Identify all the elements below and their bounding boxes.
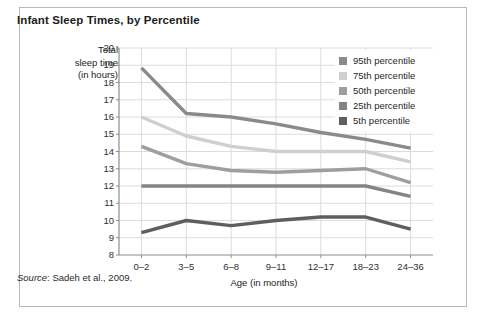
legend-swatch-icon	[339, 72, 347, 80]
source-note: Source: Sadeh et al., 2009.	[17, 272, 132, 283]
legend-swatch-icon	[339, 87, 347, 95]
legend-item[interactable]: 95th percentile	[335, 53, 433, 68]
legend-swatch-icon	[339, 57, 347, 65]
source-text: : Sadeh et al., 2009.	[47, 272, 132, 283]
legend-item-label: 50th percentile	[353, 85, 415, 96]
legend-item-label: 25th percentile	[353, 100, 415, 111]
legend-swatch-icon	[339, 102, 347, 110]
legend-item-label: 95th percentile	[353, 55, 415, 66]
legend-item[interactable]: 75th percentile	[335, 68, 433, 83]
legend-item-label: 5th percentile	[353, 115, 410, 126]
legend-swatch-icon	[339, 117, 347, 125]
legend-item[interactable]: 5th percentile	[335, 113, 433, 128]
chart-legend: 95th percentile75th percentile50th perce…	[335, 50, 433, 132]
legend-item[interactable]: 50th percentile	[335, 83, 433, 98]
source-label: Source	[17, 272, 47, 283]
legend-item-label: 75th percentile	[353, 70, 415, 81]
x-axis-title-text: Age (in months)	[230, 277, 297, 288]
legend-item[interactable]: 25th percentile	[335, 98, 433, 113]
